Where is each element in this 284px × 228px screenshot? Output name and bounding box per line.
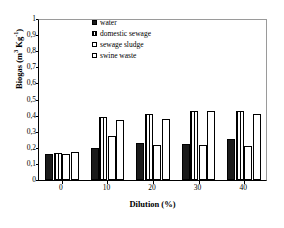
y-axis-tick-mark xyxy=(36,164,39,165)
y-axis-tick-mark xyxy=(36,35,39,36)
bar-domestic-sewage-30 xyxy=(190,111,198,180)
y-axis-tick-label: 0,2 xyxy=(14,144,36,152)
bar-water-10 xyxy=(91,148,99,180)
bar-swine-waste-40 xyxy=(253,114,261,180)
bar-sewage-sludge-40 xyxy=(244,146,252,180)
sewage-sludge-swatch xyxy=(92,42,97,47)
y-axis-tick-label: 0,8 xyxy=(14,47,36,55)
y-axis-tick-label: 0,1 xyxy=(14,160,36,168)
y-axis-tick-label: 0,4 xyxy=(14,112,36,120)
bar-domestic-sewage-40 xyxy=(236,111,244,180)
x-axis-tick-label: 0 xyxy=(46,183,76,193)
x-axis-tick-label: 40 xyxy=(228,183,258,193)
y-axis-tick-label: 0,7 xyxy=(14,63,36,71)
y-axis-tick-labels: 00,10,20,30,40,50,60,70,80,91 xyxy=(8,0,36,228)
bar-swine-waste-20 xyxy=(162,119,170,181)
y-axis-tick-mark xyxy=(36,51,39,52)
legend-item-label: domestic sewage xyxy=(100,29,151,38)
bar-group-40 xyxy=(227,19,261,180)
y-axis-tick-mark xyxy=(36,19,39,20)
y-axis-tick-mark xyxy=(36,132,39,133)
x-axis-tick-labels: 010203040 xyxy=(38,183,267,195)
bar-water-0 xyxy=(45,154,53,180)
legend-item-label: swine waste xyxy=(100,51,136,60)
bar-sewage-sludge-10 xyxy=(108,136,116,180)
y-axis-tick-mark xyxy=(36,116,39,117)
bar-swine-waste-30 xyxy=(207,111,215,180)
y-axis-tick-mark xyxy=(36,180,39,181)
x-axis-title: Dilution (%) xyxy=(38,199,267,209)
bar-swine-waste-0 xyxy=(71,152,79,180)
x-axis-tick-label: 20 xyxy=(137,183,167,193)
legend-item-sewage-sludge: sewage sludge xyxy=(92,39,188,50)
biogas-bar-chart-figure: Biogas (m3 Kg-1) 00,10,20,30,40,50,60,70… xyxy=(0,0,284,228)
bar-sewage-sludge-20 xyxy=(153,145,161,180)
y-axis-tick-label: 1 xyxy=(14,15,36,23)
bar-water-20 xyxy=(136,143,144,180)
y-axis-tick-label: 0 xyxy=(14,176,36,184)
legend-item-water: water xyxy=(92,17,188,28)
legend: waterdomestic sewagesewage sludgeswine w… xyxy=(92,17,188,61)
swine-waste-swatch xyxy=(92,53,97,58)
domestic-sewage-swatch xyxy=(92,31,97,36)
bar-sewage-sludge-0 xyxy=(62,154,70,180)
y-axis-tick-label: 0,5 xyxy=(14,96,36,104)
y-axis-tick-mark xyxy=(36,148,39,149)
legend-item-domestic-sewage: domestic sewage xyxy=(92,28,188,39)
y-axis-tick-mark xyxy=(36,100,39,101)
bar-domestic-sewage-0 xyxy=(54,153,62,180)
bar-domestic-sewage-20 xyxy=(145,114,153,180)
water-swatch xyxy=(92,20,97,25)
y-axis-tick-mark xyxy=(36,83,39,84)
y-axis-tick-label: 0,9 xyxy=(14,31,36,39)
bar-group-0 xyxy=(45,19,79,180)
y-axis-tick-label: 0,3 xyxy=(14,128,36,136)
y-axis-tick-mark xyxy=(36,67,39,68)
bar-water-40 xyxy=(227,139,235,180)
x-axis-tick-label: 10 xyxy=(91,183,121,193)
bar-swine-waste-10 xyxy=(116,120,124,180)
bar-water-30 xyxy=(182,144,190,180)
x-axis-tick-label: 30 xyxy=(183,183,213,193)
bar-domestic-sewage-10 xyxy=(99,117,107,180)
legend-item-label: water xyxy=(100,18,117,27)
y-axis-tick-label: 0,6 xyxy=(14,79,36,87)
bar-sewage-sludge-30 xyxy=(199,145,207,180)
legend-item-label: sewage sludge xyxy=(100,40,144,49)
legend-item-swine-waste: swine waste xyxy=(92,50,188,61)
